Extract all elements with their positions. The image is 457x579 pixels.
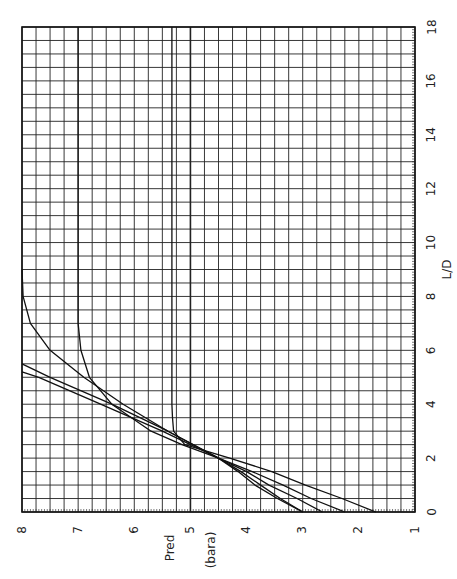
x-tick-label: 8 xyxy=(425,293,439,301)
x-tick-label: 14 xyxy=(425,127,439,142)
x-tick-label: 18 xyxy=(425,19,439,34)
x-tick-label: 0 xyxy=(425,508,439,516)
x-tick-label: 2 xyxy=(425,454,439,462)
grid xyxy=(22,27,415,512)
x-tick-label: 10 xyxy=(425,235,439,250)
y-axis-title: Pred xyxy=(163,535,177,562)
chart: 02468101214161812345678L/DPred(bara) xyxy=(0,0,457,579)
x-tick-label: 6 xyxy=(425,347,439,355)
x-tick-label: 4 xyxy=(425,400,439,408)
axis-labels: 02468101214161812345678L/DPred(bara) xyxy=(15,19,454,568)
y-axis-unit: (bara) xyxy=(204,532,218,569)
y-tick-label: 6 xyxy=(127,526,141,534)
y-tick-label: 7 xyxy=(71,526,85,534)
y-tick-label: 1 xyxy=(408,526,422,534)
y-tick-label: 5 xyxy=(183,526,197,534)
y-tick-label: 8 xyxy=(15,526,29,534)
y-tick-label: 2 xyxy=(351,526,365,534)
x-tick-label: 16 xyxy=(425,73,439,88)
x-tick-label: 12 xyxy=(425,181,439,196)
y-tick-label: 3 xyxy=(295,526,309,534)
y-tick-label: 4 xyxy=(239,526,253,534)
x-axis-title: L/D xyxy=(440,260,454,280)
